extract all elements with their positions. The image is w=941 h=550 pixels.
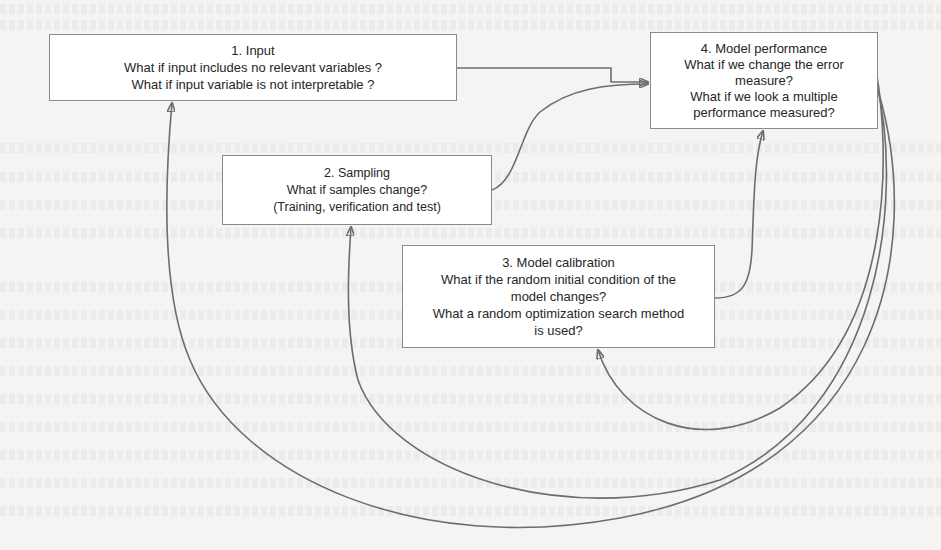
- node-input-line: What if input includes no relevant varia…: [124, 59, 382, 76]
- node-performance-title: 4. Model performance: [701, 41, 827, 57]
- node-input-line: What if input variable is not interpreta…: [132, 76, 375, 93]
- node-calibration-line: model changes?: [511, 288, 606, 305]
- background-texture: [0, 422, 941, 432]
- edge-sampling-to-performance: [492, 84, 648, 190]
- node-calibration: 3. Model calibration What if the random …: [402, 245, 715, 348]
- node-sampling: 2. Sampling What if samples change? (Tra…: [222, 155, 492, 225]
- edge-calibration-to-performance: [715, 131, 763, 298]
- background-texture: [0, 478, 941, 488]
- node-calibration-title: 3. Model calibration: [502, 254, 615, 271]
- node-performance-line: measure?: [735, 73, 793, 89]
- node-sampling-line: (Training, verification and test): [273, 199, 441, 216]
- edge-input-to-performance: [457, 68, 648, 82]
- background-texture: [0, 20, 941, 30]
- node-performance: 4. Model performance What if we change t…: [650, 32, 878, 129]
- background-texture: [0, 394, 941, 404]
- background-texture: [0, 506, 941, 516]
- node-calibration-line: What a random optimization search method: [433, 305, 684, 322]
- node-calibration-line: is used?: [534, 322, 582, 339]
- node-input-title: 1. Input: [231, 42, 274, 59]
- node-performance-line: What if we look a multiple: [690, 89, 837, 105]
- node-performance-line: performance measured?: [693, 105, 835, 121]
- node-input: 1. Input What if input includes no relev…: [49, 34, 457, 101]
- background-texture: [0, 143, 941, 153]
- background-texture: [0, 366, 941, 376]
- background-texture: [0, 228, 941, 238]
- node-performance-line: What if we change the error: [684, 57, 844, 73]
- background-texture: [0, 450, 941, 460]
- node-sampling-title: 2. Sampling: [324, 165, 390, 182]
- node-sampling-line: What if samples change?: [287, 182, 427, 199]
- background-texture: [0, 4, 941, 14]
- node-calibration-line: What if the random initial condition of …: [441, 271, 676, 288]
